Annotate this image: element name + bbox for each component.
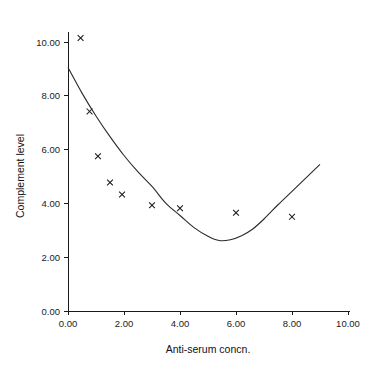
data-point-marker [233, 210, 239, 216]
data-point-marker [78, 35, 84, 41]
fitted-curve-path [68, 68, 320, 241]
data-point-marker [149, 202, 155, 208]
chart-figure: 0.002.004.006.008.0010.00 0.002.004.006.… [0, 0, 373, 372]
x-axis-tick-labels: 0.002.004.006.008.0010.00 [59, 318, 360, 329]
x-tick-label: 8.00 [283, 318, 302, 329]
x-axis-title: Anti-serum concn. [166, 343, 251, 355]
x-tick-label: 6.00 [227, 318, 246, 329]
data-point-marker [177, 205, 183, 211]
x-tick-label: 0.00 [59, 318, 78, 329]
y-tick-label: 8.00 [42, 90, 61, 101]
data-point-marker [87, 109, 93, 115]
data-point-marker [95, 153, 101, 159]
y-tick-label: 10.00 [36, 37, 60, 48]
data-point-marker [289, 214, 295, 220]
data-points [78, 35, 295, 220]
fitted-curve [68, 68, 320, 241]
x-tick-label: 2.00 [115, 318, 134, 329]
data-point-marker [107, 180, 113, 186]
y-tick-label: 0.00 [42, 306, 61, 317]
x-tick-label: 10.00 [336, 318, 360, 329]
y-tick-label: 2.00 [42, 252, 61, 263]
data-point-marker [119, 192, 125, 198]
x-tick-label: 4.00 [171, 318, 190, 329]
y-tick-label: 4.00 [42, 198, 61, 209]
axes [68, 32, 350, 311]
y-tick-label: 6.00 [42, 144, 61, 155]
y-axis-tick-labels: 0.002.004.006.008.0010.00 [36, 37, 60, 317]
scatter-plot: 0.002.004.006.008.0010.00 0.002.004.006.… [0, 0, 373, 372]
y-axis-title: Complement level [14, 134, 26, 218]
